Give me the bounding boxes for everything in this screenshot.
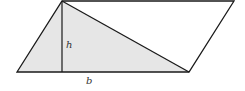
base-label: b [86, 75, 92, 86]
shaded-triangle [17, 1, 189, 72]
height-label: h [66, 39, 72, 50]
parallelogram-diagram: h b [0, 0, 245, 91]
